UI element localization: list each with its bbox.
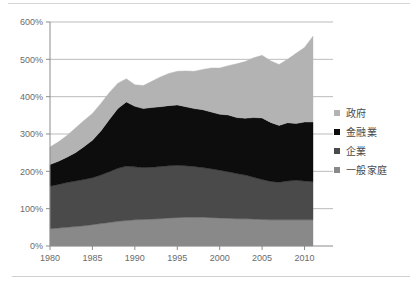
- legend-item-label: 企業: [346, 143, 367, 158]
- legend-swatch-corporate: [334, 148, 340, 154]
- legend-item[interactable]: 金融業: [334, 122, 414, 141]
- legend-item[interactable]: 政府: [334, 103, 414, 122]
- chart-figure: 0%100%200%300%400%500%600% 1980198519901…: [0, 0, 418, 287]
- legend-item-label: 金融業: [346, 124, 377, 139]
- legend-swatch-government: [334, 110, 340, 116]
- legend-item[interactable]: 一般家庭: [334, 160, 414, 179]
- x-axis-tick-labels: 1980198519901995200020052010: [40, 253, 315, 263]
- legend-item[interactable]: 企業: [334, 141, 414, 160]
- legend-swatch-financial: [334, 129, 340, 135]
- area-series-group: [50, 36, 313, 246]
- x-tick-label: 2005: [252, 253, 272, 263]
- y-tick-label: 0%: [30, 241, 43, 251]
- y-tick-label: 600%: [20, 17, 43, 27]
- legend-item-label: 一般家庭: [346, 162, 387, 177]
- x-tick-label: 1980: [40, 253, 60, 263]
- legend-item-label: 政府: [346, 105, 367, 120]
- y-tick-label: 200%: [20, 167, 43, 177]
- x-tick-label: 1985: [82, 253, 102, 263]
- y-tick-label: 100%: [20, 204, 43, 214]
- legend-swatch-household: [334, 167, 340, 173]
- y-tick-label: 300%: [20, 129, 43, 139]
- y-axis-tick-labels: 0%100%200%300%400%500%600%: [20, 17, 43, 251]
- x-tick-label: 2000: [210, 253, 230, 263]
- x-tick-label: 2010: [295, 253, 315, 263]
- y-tick-label: 500%: [20, 55, 43, 65]
- y-tick-label: 400%: [20, 92, 43, 102]
- x-tick-label: 1995: [167, 253, 187, 263]
- chart-legend: 政府金融業企業一般家庭: [334, 103, 414, 179]
- x-tick-label: 1990: [125, 253, 145, 263]
